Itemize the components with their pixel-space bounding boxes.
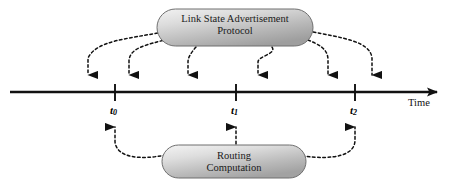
routing-capsule-shape [162,145,306,178]
lsa-capsule-shape [157,9,313,46]
lsa-edge-6 [308,31,372,75]
time-axis [10,84,437,101]
lsa-edge-4 [258,47,273,75]
lsa-edge-1 [88,32,163,75]
lsa-edge-3 [188,47,196,75]
diagram-graphics [0,0,468,193]
routing-edge-1 [115,127,166,157]
lsa-edge-5 [303,38,328,75]
lsa-edge-2 [129,39,168,75]
routing-edge-3 [302,127,355,157]
diagram-canvas: Link State Advertisement Protocol Routin… [0,0,468,193]
